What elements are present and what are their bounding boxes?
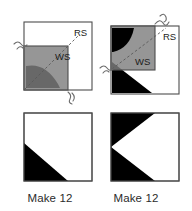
thread-mark-bottom	[68, 92, 74, 104]
unit-right-construction	[100, 14, 179, 94]
sewing-diagram: RS WS RS WS Make 12 Make 12	[0, 0, 192, 211]
wrong-side-label-left: WS	[55, 51, 70, 62]
wrong-side-label-right: WS	[135, 56, 150, 67]
make-quantity-caption-left: Make 12	[14, 192, 86, 204]
thread-mark-top	[155, 14, 169, 25]
unit-left-finished	[24, 113, 92, 181]
make-quantity-caption-right: Make 12	[100, 192, 172, 204]
right-side-label-left: RS	[74, 27, 87, 38]
unit-right-finished	[111, 113, 179, 181]
right-side-label-right: RS	[163, 31, 176, 42]
